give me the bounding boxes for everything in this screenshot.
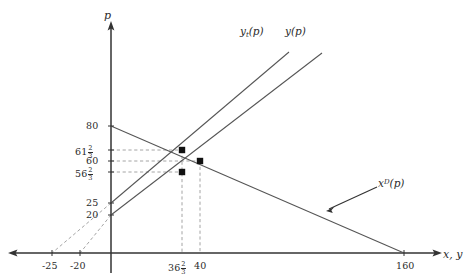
xy-axis-label: x, y [443,249,462,260]
supply-argument: (p) [291,25,306,37]
curves [111,52,404,253]
point-supplier-price[interactable] [179,169,185,175]
guide-supply-extension [80,215,111,253]
tick-label-y-20: 20 [86,210,98,220]
tick-label-y-60: 60 [86,156,98,166]
plot-canvas [0,0,464,279]
tick-label-x-40: 40 [194,261,206,271]
point-free-equilibrium[interactable] [197,158,203,164]
demand-argument: (p) [390,177,405,189]
demand-annotation-leader [329,187,377,209]
demand-curve[interactable] [111,126,404,253]
tick-label-y-5623: 5623 [75,167,93,181]
supply-curve[interactable] [111,53,322,215]
demand-annotation-arrow [326,207,335,213]
tick-label-x-m20: -20 [70,261,86,271]
guide-supply-tax-extension [52,203,111,253]
supply-tax-argument: (p) [249,25,264,37]
supply-curve-label: y(p) [285,26,306,37]
guide-lines [52,150,200,253]
denominator: 3 [181,269,186,276]
demand-curve-label: xD(p) [378,178,404,189]
tick-label-y-5623-int: 56 [75,168,87,179]
tick-label-x-m25: -25 [42,261,58,271]
supply-tax-curve-label: yt(p) [240,26,264,39]
supply-demand-figure: p x, y 80 6123 60 5623 25 20 -25 -20 362… [0,0,464,279]
denominator: 3 [88,175,93,182]
tick-label-y-80: 80 [86,121,98,131]
tick-label-x-160: 160 [396,261,414,271]
tick-label-x-3623-int: 36 [168,262,180,273]
tick-marks [52,126,404,256]
fraction-two-thirds-b: 23 [88,167,93,181]
fraction-two-thirds-c: 23 [181,261,186,275]
tick-label-x-3623: 3623 [168,261,186,275]
point-tax-equilibrium[interactable] [179,147,185,153]
tick-label-y-25: 25 [86,198,98,208]
p-axis-label: p [104,10,111,21]
